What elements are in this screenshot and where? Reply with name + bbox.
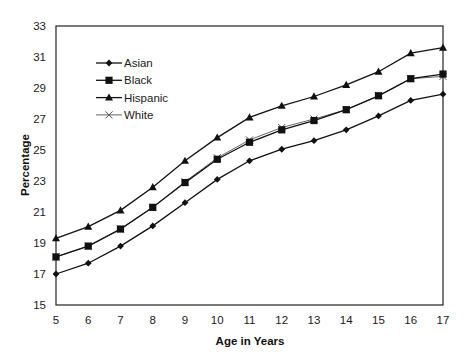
square-marker	[343, 106, 350, 113]
diamond-marker	[106, 60, 113, 67]
y-tick-label: 23	[33, 175, 46, 187]
triangle-marker	[149, 183, 157, 190]
diamond-marker	[117, 243, 124, 250]
triangle-marker	[117, 206, 125, 213]
legend-label: White	[124, 109, 153, 121]
x-tick-label: 12	[275, 314, 288, 326]
square-marker	[439, 70, 446, 77]
square-marker	[181, 179, 188, 186]
diamond-marker	[53, 271, 60, 278]
diamond-marker	[343, 126, 350, 133]
legend-label: Black	[124, 74, 152, 86]
x-tick-label: 6	[85, 314, 91, 326]
x-axis-title: Age in Years	[216, 335, 285, 347]
legend-label: Hispanic	[124, 92, 168, 104]
square-marker	[149, 204, 156, 211]
x-tick-label: 8	[150, 314, 156, 326]
y-axis-ticks: 15171921232527293133	[33, 20, 46, 311]
y-tick-label: 17	[33, 268, 46, 280]
square-marker	[407, 75, 414, 82]
triangle-marker	[439, 44, 447, 51]
line-chart: 15171921232527293133 5678910111213141516…	[0, 0, 468, 361]
diamond-marker	[85, 260, 92, 267]
square-marker	[105, 77, 112, 84]
triangle-marker	[213, 133, 221, 140]
y-tick-label: 21	[33, 206, 46, 218]
x-tick-label: 14	[340, 314, 353, 326]
diamond-marker	[246, 157, 253, 164]
y-tick-label: 25	[33, 144, 46, 156]
x-tick-label: 5	[53, 314, 59, 326]
square-marker	[117, 225, 124, 232]
legend: AsianBlackHispanicWhite	[96, 57, 168, 121]
series-white	[53, 73, 447, 261]
legend-item-white: White	[96, 109, 153, 121]
square-marker	[85, 243, 92, 250]
x-tick-label: 16	[404, 314, 417, 326]
y-tick-label: 19	[33, 237, 46, 249]
x-tick-label: 7	[117, 314, 123, 326]
square-marker	[278, 126, 285, 133]
diamond-marker	[278, 146, 285, 153]
legend-item-black: Black	[96, 74, 152, 86]
x-axis-ticks: 567891011121314151617	[53, 314, 450, 326]
legend-item-hispanic: Hispanic	[96, 92, 168, 104]
x-tick-label: 9	[182, 314, 188, 326]
square-marker	[375, 92, 382, 99]
x-tick-label: 13	[308, 314, 321, 326]
triangle-marker	[84, 223, 92, 230]
y-tick-label: 27	[33, 113, 46, 125]
diamond-marker	[311, 137, 318, 144]
x-tick-label: 17	[437, 314, 450, 326]
x-tick-label: 15	[372, 314, 385, 326]
triangle-marker	[181, 157, 189, 164]
diamond-marker	[407, 97, 414, 104]
y-axis-title: Percentage	[19, 134, 31, 196]
diamond-marker	[375, 113, 382, 120]
diamond-marker	[440, 91, 447, 98]
x-tick-label: 11	[244, 314, 256, 326]
x-tick-label: 10	[211, 314, 224, 326]
series-line	[56, 94, 443, 274]
triangle-marker	[375, 68, 383, 75]
y-tick-label: 31	[33, 51, 46, 63]
legend-label: Asian	[124, 57, 153, 69]
square-marker	[214, 156, 221, 163]
series-line	[56, 74, 443, 257]
y-tick-label: 33	[33, 20, 46, 32]
y-tick-label: 29	[33, 82, 46, 94]
square-marker	[310, 117, 317, 124]
square-marker	[246, 139, 253, 146]
y-tick-label: 15	[33, 299, 46, 311]
legend-item-asian: Asian	[96, 57, 153, 69]
square-marker	[52, 253, 59, 260]
series-line	[56, 76, 443, 257]
